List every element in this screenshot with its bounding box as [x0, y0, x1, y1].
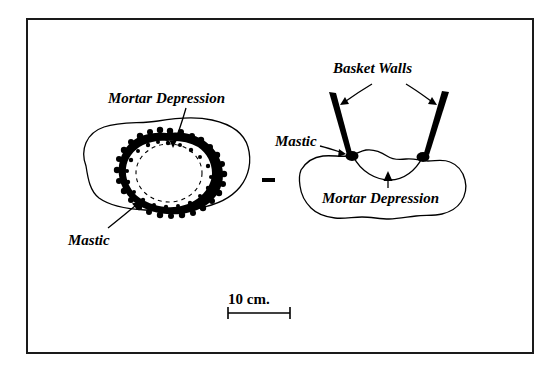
label-scale-bar: 10 cm.: [228, 291, 270, 308]
section-mastic-leader: [320, 146, 340, 152]
scale-bar: [228, 307, 290, 319]
figure-artwork: [0, 0, 559, 376]
section-stone-outline: [299, 150, 465, 219]
figure-page: Mortar Depression Mastic Basket Walls Ma…: [0, 0, 559, 376]
label-mortar-depression-section: Mortar Depression: [322, 190, 439, 207]
section-mortar-arrow: [384, 171, 393, 181]
plan-mastic-leader: [108, 205, 136, 228]
basket-walls-left-arrow: [340, 97, 349, 105]
section-basket-wall-right: [424, 91, 449, 155]
label-basket-walls: Basket Walls: [333, 60, 412, 77]
plan-mortar-depression: [136, 144, 202, 202]
basket-walls-left-leader: [346, 84, 372, 101]
basket-walls-right-arrow: [428, 97, 437, 105]
label-mortar-depression-plan: Mortar Depression: [108, 90, 225, 107]
basket-walls-right-leader: [406, 84, 431, 101]
label-mastic-plan: Mastic: [68, 232, 110, 249]
view-connector-dash: [262, 178, 275, 182]
section-basket-wall-left: [329, 92, 352, 155]
label-mastic-section: Mastic: [275, 133, 317, 150]
